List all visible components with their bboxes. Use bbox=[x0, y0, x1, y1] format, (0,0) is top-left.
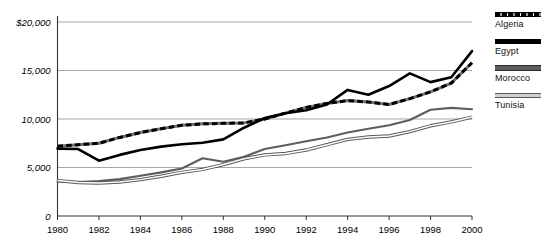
x-tick-label: 1998 bbox=[420, 224, 441, 235]
x-axis-labels-group: 1980198219841986198819901992199419961998… bbox=[47, 224, 483, 235]
series-line-algeria-base bbox=[58, 63, 473, 146]
series-line-algeria bbox=[58, 63, 473, 146]
x-tick-label: 1992 bbox=[296, 224, 317, 235]
x-tick-label: 1990 bbox=[254, 224, 275, 235]
y-tick-label: 5,000 bbox=[27, 162, 51, 173]
legend-label-tunisia: Tunisia bbox=[495, 99, 547, 111]
axes-group bbox=[58, 16, 473, 216]
legend-label-algeria: Algeria bbox=[495, 18, 547, 30]
x-tick-label: 1984 bbox=[130, 224, 151, 235]
legend-item-tunisia[interactable]: Tunisia bbox=[495, 93, 547, 111]
x-tick-label: 2000 bbox=[461, 224, 482, 235]
tick-marks-group bbox=[58, 216, 473, 220]
x-tick-label: 1996 bbox=[379, 224, 400, 235]
morocco-line-swatch bbox=[495, 65, 541, 71]
y-tick-label: 10,000 bbox=[21, 114, 51, 125]
legend-item-egypt[interactable]: Egypt bbox=[495, 39, 547, 57]
legend-item-morocco[interactable]: Morocco bbox=[495, 65, 547, 84]
x-tick-label: 1994 bbox=[337, 224, 358, 235]
y-tick-label: 15,000 bbox=[21, 65, 51, 76]
egypt-line-swatch bbox=[495, 39, 541, 44]
y-axis-labels-group: 05,00010,00015,000$20,000 bbox=[15, 17, 51, 222]
gridlines-group bbox=[58, 22, 473, 168]
x-tick-label: 1982 bbox=[88, 224, 109, 235]
y-tick-label: $20,000 bbox=[15, 17, 51, 28]
chart-root: 05,00010,00015,000$20,000 19801982198419… bbox=[0, 0, 551, 251]
series-line-egypt bbox=[58, 51, 473, 161]
line-chart: 05,00010,00015,000$20,000 19801982198419… bbox=[0, 0, 551, 251]
x-tick-label: 1988 bbox=[213, 224, 234, 235]
tunisia-line-swatch bbox=[495, 93, 541, 98]
x-tick-label: 1980 bbox=[47, 224, 68, 235]
algeria-line-swatch bbox=[495, 12, 541, 17]
chart-legend: AlgeriaEgyptMoroccoTunisia bbox=[495, 12, 547, 119]
y-tick-label: 0 bbox=[45, 211, 51, 222]
legend-label-egypt: Egypt bbox=[495, 45, 547, 57]
legend-item-algeria[interactable]: Algeria bbox=[495, 12, 547, 30]
legend-label-morocco: Morocco bbox=[495, 72, 547, 84]
x-tick-label: 1986 bbox=[171, 224, 192, 235]
